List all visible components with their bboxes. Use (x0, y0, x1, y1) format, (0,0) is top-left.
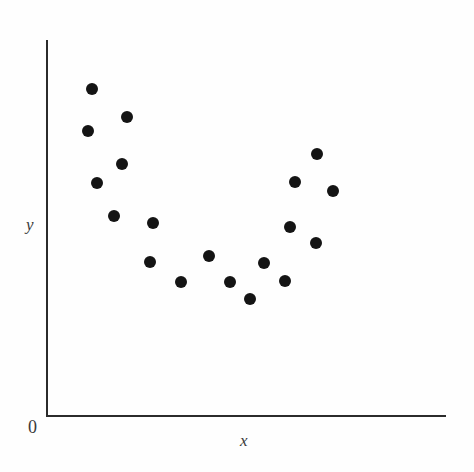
data-point (311, 148, 323, 160)
data-point (258, 257, 270, 269)
y-axis-label: y (26, 216, 34, 233)
data-point (86, 83, 98, 95)
data-point (147, 217, 159, 229)
data-point (175, 276, 187, 288)
data-point (244, 293, 256, 305)
data-point (289, 176, 301, 188)
origin-label: 0 (28, 418, 37, 436)
data-point (91, 177, 103, 189)
x-axis-label: x (240, 432, 248, 449)
data-point (224, 276, 236, 288)
data-point (203, 250, 215, 262)
data-point (144, 256, 156, 268)
data-point (310, 237, 322, 249)
data-point (108, 210, 120, 222)
y-axis-line (46, 40, 48, 416)
x-axis-line (46, 415, 446, 417)
data-point (116, 158, 128, 170)
data-point (284, 221, 296, 233)
scatter-plot-figure: y x 0 (0, 0, 474, 472)
data-point (82, 125, 94, 137)
data-point (279, 275, 291, 287)
data-point (121, 111, 133, 123)
data-point-layer (0, 0, 474, 472)
data-point (327, 185, 339, 197)
